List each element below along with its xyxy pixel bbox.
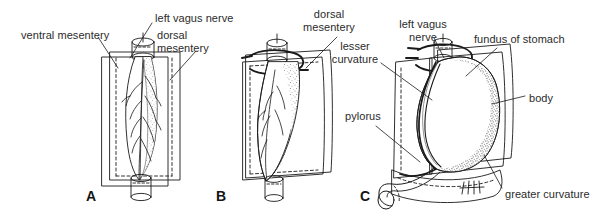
- label-dorsal-mesentery-b: dorsal mesentery: [289, 8, 369, 33]
- panel-letter-c: C: [360, 188, 370, 204]
- panel-letter-a: A: [86, 188, 96, 204]
- label-lesser-curvature: lesser curvature: [320, 40, 390, 65]
- label-greater-curvature: greater curvature: [505, 188, 590, 201]
- panel-letter-b: B: [216, 188, 226, 204]
- label-left-vagus-nerve-c: left vagus nerve: [391, 18, 455, 43]
- panel-c-art: [376, 34, 525, 209]
- label-fundus-of-stomach: fundus of stomach: [474, 33, 565, 46]
- label-body: body: [529, 92, 553, 105]
- panel-c-stomach: [417, 57, 500, 172]
- label-dorsal-mesentery-a: dorsal mesentery: [157, 29, 209, 54]
- stomach-rotation-figure: ventral mesentery left vagus nerve dorsa…: [0, 0, 615, 221]
- label-pylorus: pylorus: [345, 110, 381, 123]
- panel-c-omentum-hatching: [460, 181, 484, 194]
- label-ventral-mesentery: ventral mesentery: [21, 29, 109, 42]
- label-left-vagus-nerve-a: left vagus nerve: [155, 12, 233, 25]
- panel-b-stomach: [258, 62, 300, 181]
